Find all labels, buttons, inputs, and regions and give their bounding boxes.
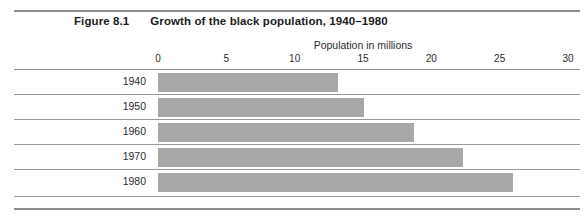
bar-row-label: 1950	[74, 100, 146, 112]
row-separator-5	[14, 196, 580, 197]
bar-row-label: 1980	[74, 175, 146, 187]
bar	[158, 98, 364, 117]
x-tick-label: 10	[289, 53, 300, 64]
x-tick-label: 30	[562, 53, 573, 64]
row-separator-2	[14, 119, 580, 120]
row-separator-1	[14, 94, 580, 95]
bar	[158, 123, 414, 142]
x-axis-title: Population in millions	[158, 39, 568, 51]
plot-area: 19401950196019701980	[0, 70, 585, 196]
bar-row: 1980	[0, 170, 585, 195]
x-tick-label: 20	[426, 53, 437, 64]
x-tick-label: 5	[224, 53, 230, 64]
bar-row: 1960	[0, 120, 585, 145]
bar-row-label: 1940	[74, 75, 146, 87]
top-border-rule	[14, 10, 580, 12]
bar	[158, 173, 513, 192]
bottom-border-rule	[14, 208, 580, 210]
figure-number-label: Figure 8.1	[74, 15, 129, 27]
bar-row: 1950	[0, 95, 585, 120]
bar-row-label: 1970	[74, 150, 146, 162]
row-separator-4	[14, 169, 580, 170]
x-tick-label: 25	[494, 53, 505, 64]
bar	[158, 73, 338, 92]
row-separator-3	[14, 144, 580, 145]
figure-header: Figure 8.1 Growth of the black populatio…	[74, 15, 388, 27]
figure-container: Figure 8.1 Growth of the black populatio…	[0, 0, 585, 222]
bar	[158, 148, 463, 167]
bar-row: 1970	[0, 145, 585, 170]
bar-row: 1940	[0, 70, 585, 95]
figure-title: Growth of the black population, 1940–198…	[150, 15, 387, 27]
x-tick-label: 15	[357, 53, 368, 64]
bar-row-label: 1960	[74, 125, 146, 137]
x-tick-label: 0	[155, 53, 161, 64]
x-axis-tick-labels: 051015202530	[0, 53, 585, 67]
